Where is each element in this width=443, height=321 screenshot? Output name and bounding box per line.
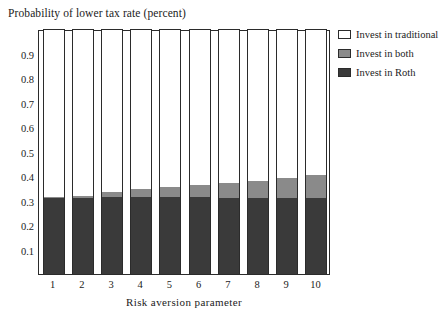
bar-segment-roth (218, 198, 240, 274)
bar-segment-roth (101, 197, 123, 274)
y-axis-tick-label: 0.2 (10, 221, 34, 232)
bar-column (43, 29, 65, 274)
x-axis-tick-label: 8 (254, 279, 259, 290)
bar-segment-roth (189, 197, 211, 274)
legend-item: Invest in both (338, 45, 442, 62)
x-axis-tick-label: 4 (138, 279, 143, 290)
x-axis-tick-label: 3 (108, 279, 113, 290)
legend-item: Invest in traditional (338, 26, 442, 43)
bar-column (189, 29, 211, 274)
legend-item: Invest in Roth (338, 64, 442, 81)
y-axis-tick-label: 0.3 (10, 196, 34, 207)
bar-column (101, 29, 123, 274)
y-axis-tick-label: 0.4 (10, 172, 34, 183)
x-axis-tick-label: 6 (196, 279, 201, 290)
bar-segment-roth (276, 198, 298, 274)
plot-inner (39, 31, 329, 274)
y-axis-tick-label: 0.6 (10, 123, 34, 134)
bar-segment-both (218, 183, 240, 197)
bar-segment-both (189, 185, 211, 197)
bar-column (130, 29, 152, 274)
bar-segment-roth (130, 197, 152, 274)
bar-segment-traditional (72, 29, 94, 196)
bar-segment-traditional (101, 29, 123, 192)
bar-column (218, 29, 240, 274)
bar-segment-traditional (43, 29, 65, 197)
x-axis-title: Risk aversion parameter (38, 296, 330, 308)
y-axis-tick-label: 0.8 (10, 74, 34, 85)
x-axis-tick-label: 10 (310, 279, 321, 290)
y-axis-tick-label: 0.1 (10, 245, 34, 256)
chart-root: Probability of lower tax rate (percent) … (0, 0, 443, 321)
bar-segment-traditional (218, 29, 240, 183)
y-axis-tick-label: 0.5 (10, 147, 34, 158)
x-axis-tick-label: 2 (79, 279, 84, 290)
x-axis-tick-label: 1 (50, 279, 55, 290)
bar-column (159, 29, 181, 274)
y-axis-tick-label: 0.9 (10, 49, 34, 60)
bar-segment-roth (159, 197, 181, 274)
chart-title: Probability of lower tax rate (percent) (8, 7, 186, 19)
bar-column (72, 29, 94, 274)
legend-item-label: Invest in both (356, 48, 414, 59)
bar-segment-roth (247, 198, 269, 274)
bar-segment-both (247, 181, 269, 198)
legend-item-label: Invest in Roth (356, 67, 416, 78)
x-axis-tick-label: 7 (225, 279, 230, 290)
x-axis-tick-label: 9 (284, 279, 289, 290)
bar-segment-both (130, 189, 152, 196)
bar-segment-roth (305, 198, 327, 274)
plot-area (38, 30, 330, 275)
legend-swatch-icon (338, 49, 351, 58)
y-axis-tick-label: 0.7 (10, 98, 34, 109)
bar-segment-traditional (276, 29, 298, 178)
bar-segment-traditional (159, 29, 181, 187)
bar-segment-roth (43, 198, 65, 274)
legend-swatch-icon (338, 30, 351, 39)
bar-segment-roth (72, 198, 94, 274)
bar-column (276, 29, 298, 274)
bar-column (247, 29, 269, 274)
bar-segment-traditional (189, 29, 211, 185)
legend-item-label: Invest in traditional (356, 29, 438, 40)
bar-segment-both (276, 178, 298, 198)
bar-segment-traditional (247, 29, 269, 181)
bar-segment-both (159, 187, 181, 197)
chart-legend: Invest in traditionalInvest in bothInves… (338, 26, 442, 83)
bar-segment-traditional (305, 29, 327, 175)
x-axis-tick-label: 5 (167, 279, 172, 290)
legend-swatch-icon (338, 68, 351, 77)
bar-column (305, 29, 327, 274)
bar-segment-both (305, 175, 327, 198)
bar-segment-traditional (130, 29, 152, 189)
